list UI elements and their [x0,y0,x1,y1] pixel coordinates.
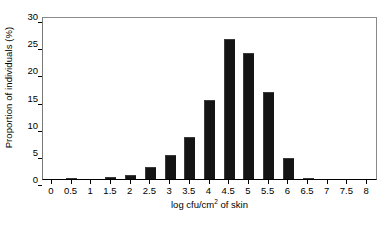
x-axis-tick-mark [130,180,131,184]
x-axis-tick-mark [248,180,249,184]
bar [283,158,294,179]
x-axis-tick-mark [307,180,308,184]
bar [204,100,215,179]
bar [184,137,195,179]
x-axis-title-suffix: of skin [218,199,248,210]
x-axis-tick-mark [366,180,367,184]
y-axis-tick-label: 15 [18,94,38,104]
bar [263,92,274,179]
x-axis-tick-mark [287,180,288,184]
y-axis-tick-label: 10 [18,121,38,131]
y-axis-tick-label: 25 [18,39,38,49]
y-axis-tick-label: 5 [18,148,38,158]
y-axis-tick-label: 30 [18,12,38,22]
bar [243,53,254,179]
plot-area [42,17,377,180]
bar [125,175,136,179]
x-axis-tick-mark [228,180,229,184]
x-axis-tick-mark [346,180,347,184]
x-axis-tick-mark [149,180,150,184]
y-axis-title: Proportion of individuals (%) [0,0,18,175]
x-axis-title-prefix: log cfu/cm [171,199,214,210]
x-axis-tick-mark [51,180,52,184]
x-axis-tick-mark [169,180,170,184]
y-axis-tick-labels: 051015202530 [18,12,38,184]
bar [165,155,176,179]
x-axis-tick-mark [71,180,72,184]
x-axis-tick-mark [110,180,111,184]
bar [303,178,314,179]
x-axis-title: log cfu/cm2 of skin [42,199,377,210]
x-axis-tick-mark [209,180,210,184]
bar [66,178,77,179]
x-axis-tick-mark [90,180,91,184]
chart-figure: Proportion of individuals (%) 0510152025… [0,0,385,229]
x-axis-tick-mark [189,180,190,184]
y-axis-tick-label: 20 [18,66,38,76]
y-axis-tick-label: 0 [18,175,38,185]
x-axis-tick-label: 8 [353,185,379,197]
x-axis-tick-mark [327,180,328,184]
y-axis-title-text: Proportion of individuals (%) [4,27,15,149]
x-axis-tick-labels: 00.511.522.533.544.555.566.577.58 [42,185,377,199]
x-axis-tick-mark [268,180,269,184]
bar [145,167,156,179]
bar-series [43,18,376,179]
bar [224,39,235,179]
bar [105,177,116,179]
